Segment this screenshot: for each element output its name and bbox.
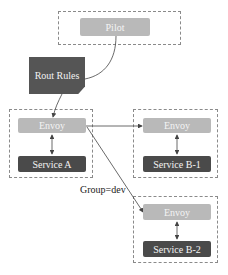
group-dev-label: Group=dev [80,184,126,195]
pilot-node: Pilot [80,18,150,36]
envoy-a-to-b2-edge [87,127,143,212]
service-b2-node: Service B-2 [143,241,211,257]
envoy-b2-node: Envoy [143,204,211,220]
service-a-node: Service A [18,156,86,172]
envoy-b1-node: Envoy [143,118,211,133]
pilot-to-rules-edge [85,36,116,79]
service-b1-node: Service B-1 [143,156,211,172]
connectors [0,0,228,275]
envoy-a-node: Envoy [18,118,86,133]
rules-to-envoy-a-edge [53,94,62,117]
rout-rules-node: Rout Rules [29,57,85,94]
